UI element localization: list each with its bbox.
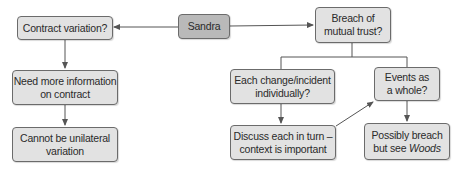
node-label-line1: Each change/incident xyxy=(234,74,330,87)
node-label: Contract variation? xyxy=(23,22,107,35)
node-label-line1: Possibly breach xyxy=(371,129,442,142)
node-breach-mutual-trust: Breach of mutual trust? xyxy=(315,7,391,43)
node-cannot-unilateral: Cannot be unilateral variation xyxy=(12,127,118,162)
node-label-line2: context is important xyxy=(239,143,326,156)
node-possibly-breach: Possibly breach but see Woods xyxy=(364,123,450,160)
node-label-line2: mutual trust? xyxy=(324,25,382,38)
node-sandra: Sandra xyxy=(178,14,230,39)
node-each-change: Each change/incident individually? xyxy=(230,69,335,104)
node-label-line2: but see Woods xyxy=(373,142,440,155)
node-label-line2: on contract xyxy=(40,88,90,101)
node-label-line2: variation xyxy=(46,145,84,158)
node-label-line1: Need more information xyxy=(14,75,117,88)
node-events-whole: Events as a whole? xyxy=(374,67,440,101)
node-label-line1: Discuss each in turn – xyxy=(234,130,333,143)
node-label-line2: individually? xyxy=(255,87,310,100)
node-contract-variation: Contract variation? xyxy=(17,16,113,40)
node-label-text: but see xyxy=(373,142,409,154)
node-discuss-each: Discuss each in turn – context is import… xyxy=(230,125,336,160)
case-name-woods: Woods xyxy=(409,142,441,154)
node-label-line1: Cannot be unilateral xyxy=(20,132,110,145)
node-need-more-info: Need more information on contract xyxy=(12,70,118,105)
node-label: Sandra xyxy=(188,20,221,33)
node-label-line1: Events as xyxy=(385,71,429,84)
node-label-line1: Breach of xyxy=(331,12,374,25)
node-label-line2: a whole? xyxy=(387,84,427,97)
